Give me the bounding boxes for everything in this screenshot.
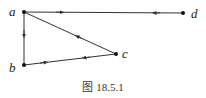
node-label-d: d (191, 6, 198, 21)
node-c (114, 52, 118, 56)
figure-caption: 图 18.5.1 (0, 78, 206, 94)
arrow-c-to-a (77, 36, 82, 38)
edge-b-c (24, 54, 116, 65)
arrow-b-to-c (40, 62, 46, 63)
node-a (22, 10, 26, 14)
node-label-b: b (9, 60, 16, 75)
node-label-c: c (122, 46, 128, 61)
node-d (181, 11, 185, 15)
arrow-c-to-b (84, 57, 90, 58)
directed-graph: a b c d (0, 0, 206, 78)
edge-c-a (24, 12, 116, 54)
node-b (22, 63, 26, 67)
node-label-a: a (9, 4, 16, 19)
